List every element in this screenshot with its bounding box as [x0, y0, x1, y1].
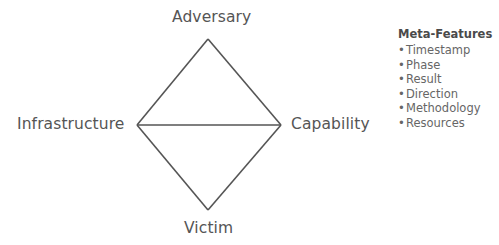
meta-feature-item: •Methodology	[398, 101, 492, 116]
meta-feature-item: •Timestamp	[398, 43, 492, 58]
edge-infrastructure-victim	[137, 125, 208, 210]
meta-features-list: •Timestamp •Phase •Result •Direction •Me…	[398, 43, 492, 131]
bullet-icon: •	[398, 72, 406, 87]
vertex-label-capability: Capability	[291, 115, 370, 133]
meta-feature-label: Timestamp	[406, 43, 470, 57]
meta-feature-label: Phase	[406, 58, 440, 72]
meta-feature-label: Result	[406, 72, 442, 86]
meta-features-panel: Meta-Features •Timestamp •Phase •Result …	[398, 27, 492, 131]
vertex-label-victim: Victim	[184, 219, 233, 237]
meta-features-title: Meta-Features	[398, 27, 492, 41]
meta-feature-item: •Direction	[398, 87, 492, 102]
vertex-label-infrastructure: Infrastructure	[17, 115, 124, 133]
bullet-icon: •	[398, 43, 406, 58]
meta-feature-label: Resources	[406, 116, 465, 130]
meta-feature-item: •Phase	[398, 58, 492, 73]
meta-feature-label: Direction	[406, 87, 458, 101]
meta-feature-label: Methodology	[406, 101, 481, 115]
vertex-label-adversary: Adversary	[172, 8, 251, 26]
edge-adversary-capability	[208, 39, 281, 125]
edge-capability-victim	[208, 125, 281, 210]
meta-feature-item: •Result	[398, 72, 492, 87]
bullet-icon: •	[398, 116, 406, 131]
bullet-icon: •	[398, 101, 406, 116]
bullet-icon: •	[398, 87, 406, 102]
meta-feature-item: •Resources	[398, 116, 492, 131]
edge-adversary-infrastructure	[137, 39, 208, 125]
bullet-icon: •	[398, 58, 406, 73]
